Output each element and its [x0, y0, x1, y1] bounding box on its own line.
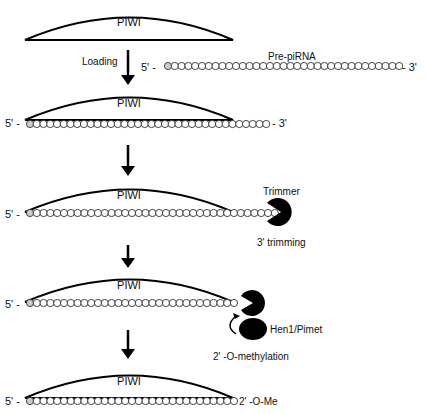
piwi-label-1: PIWI	[89, 16, 169, 28]
rna-strand-3	[26, 209, 278, 216]
hen1-pimet-label: Hen1/Pimet	[270, 324, 322, 335]
pre-pirna-label: Pre-piRNA	[268, 51, 316, 62]
step5-5-end: 5' -	[5, 395, 20, 407]
arrow-down-4	[121, 330, 135, 359]
step4-5-end: 5' -	[5, 298, 20, 310]
pre-pirna-3-end: - 3'	[402, 61, 417, 73]
step3-5-end: 5' -	[5, 208, 20, 220]
hen1-pimet-icon	[230, 290, 267, 340]
trimmer-label: Trimmer	[263, 186, 300, 197]
loading-label: Loading	[82, 56, 118, 67]
arrow-down-3	[121, 245, 135, 268]
piwi-label-3: PIWI	[89, 189, 169, 201]
piwi-label-4: PIWI	[89, 279, 169, 291]
arrow-down-2	[121, 145, 135, 176]
step2-3-end: - 3'	[272, 117, 287, 129]
rna-strand-2	[26, 120, 269, 127]
piwi-label-2: PIWI	[89, 97, 169, 109]
step2-5-end: 5' -	[5, 117, 20, 129]
pre-pirna-strand	[164, 62, 402, 69]
rna-strand-5	[26, 397, 237, 404]
rna-strand-4	[26, 299, 237, 306]
methylation-label: 2' -O-methylation	[213, 351, 289, 362]
step5-3-end: 2' -O-Me	[239, 396, 278, 407]
pre-pirna-5-end: 5' -	[141, 61, 156, 73]
trimming-label: 3' trimming	[257, 237, 306, 248]
arrow-down-1	[121, 50, 135, 85]
piwi-label-5: PIWI	[89, 375, 169, 387]
